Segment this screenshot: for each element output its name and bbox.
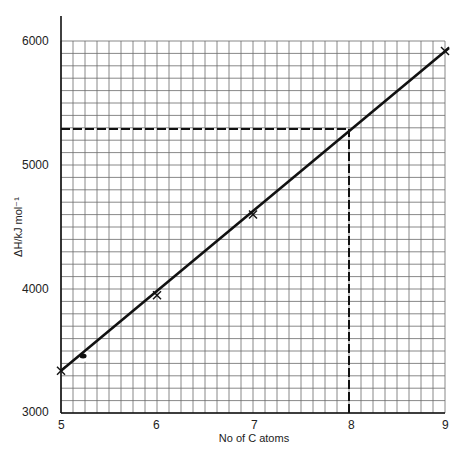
y-tick-6000: 6000	[22, 34, 49, 48]
x-tick-7: 7	[251, 418, 258, 432]
x-tick-9: 9	[442, 418, 449, 432]
chart-canvas	[0, 0, 470, 470]
y-axis-label: ΔH/kJ mol⁻¹	[12, 197, 25, 257]
x-tick-6: 6	[153, 418, 160, 432]
blob-mark	[80, 353, 87, 358]
x-tick-8: 8	[348, 418, 355, 432]
best-fit-line	[61, 48, 449, 371]
y-tick-5000: 5000	[22, 158, 49, 172]
x-axis-label: No of C atoms	[219, 432, 289, 444]
x-tick-5: 5	[58, 418, 65, 432]
y-tick-3000: 3000	[22, 405, 49, 419]
y-tick-4000: 4000	[22, 282, 49, 296]
grid	[61, 41, 445, 413]
